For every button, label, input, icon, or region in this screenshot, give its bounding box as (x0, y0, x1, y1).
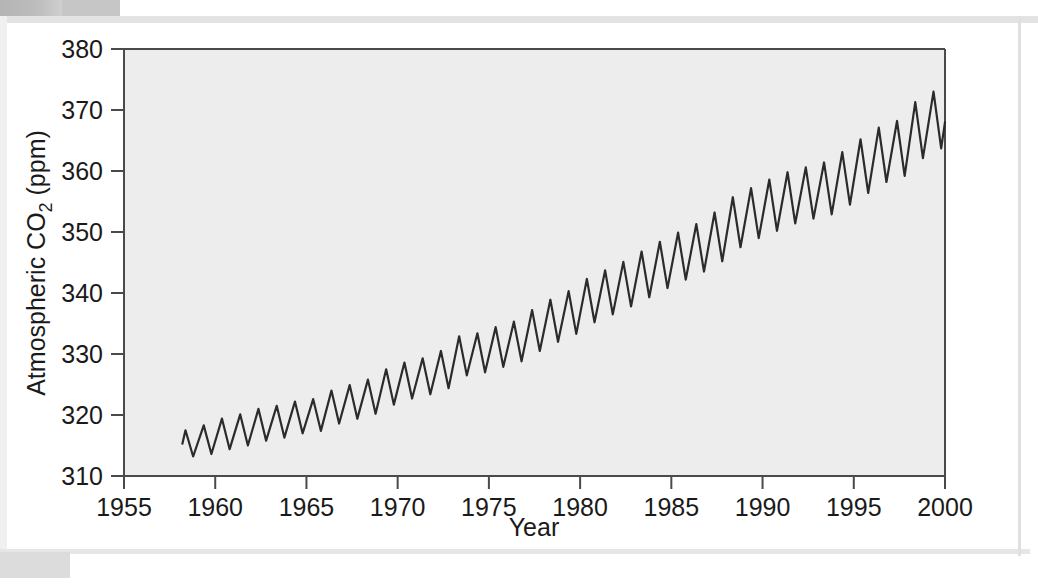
y-axis-title-main: Atmospheric CO (22, 212, 50, 395)
y-tick-label: 310 (61, 462, 103, 490)
x-axis-ticks (124, 476, 945, 489)
x-tick-label: 1980 (552, 493, 608, 521)
y-axis-title-unit: (ppm) (22, 130, 50, 202)
x-tick-label: 1965 (279, 493, 335, 521)
y-tick-label: 320 (61, 401, 103, 429)
x-tick-label: 1960 (187, 493, 243, 521)
y-axis-title-subscript: 2 (36, 202, 56, 212)
panel-edge-top (0, 16, 1038, 23)
x-tick-label: 1995 (826, 493, 882, 521)
scan-edge-artifact-bottom (0, 552, 70, 578)
y-axis-tick-labels: 310320330340350360370380 (61, 35, 103, 490)
x-tick-label: 1970 (370, 493, 426, 521)
x-tick-label: 1985 (644, 493, 700, 521)
panel-edge-bottom (0, 549, 1030, 554)
y-tick-label: 380 (61, 35, 103, 63)
x-tick-label: 1990 (735, 493, 791, 521)
figure-page: 310320330340350360370380 195519601965197… (0, 0, 1038, 587)
y-tick-label: 350 (61, 218, 103, 246)
y-tick-label: 370 (61, 96, 103, 124)
y-axis-ticks (111, 49, 124, 476)
x-tick-label: 1955 (96, 493, 152, 521)
y-tick-label: 340 (61, 279, 103, 307)
plot-area-background (124, 49, 945, 476)
panel-edge-right (1018, 16, 1021, 556)
x-axis-title: Year (509, 513, 560, 541)
x-tick-label: 2000 (917, 493, 973, 521)
figure-panel: 310320330340350360370380 195519601965197… (7, 23, 1018, 549)
y-tick-label: 330 (61, 340, 103, 368)
y-tick-label: 360 (61, 157, 103, 185)
co2-line-chart: 310320330340350360370380 195519601965197… (7, 23, 1018, 549)
y-axis-title: Atmospheric CO2 (ppm) (22, 130, 56, 396)
panel-edge-left (0, 16, 7, 556)
